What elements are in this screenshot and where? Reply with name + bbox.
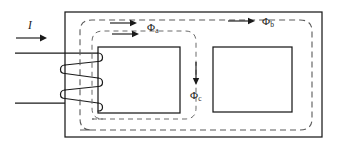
coil-strand-4 bbox=[65, 99, 98, 104]
left-window-rectangle bbox=[98, 47, 180, 113]
flux-c-subscript: c bbox=[198, 94, 202, 103]
flux-c-arrow-head bbox=[193, 78, 199, 85]
flux-a-subscript: a bbox=[155, 26, 159, 35]
outer-core-rectangle bbox=[65, 12, 322, 137]
flux-b-symbol: Φ bbox=[262, 15, 270, 27]
coil-turn-back-2 bbox=[61, 90, 66, 99]
current-arrow-head bbox=[40, 35, 47, 42]
flux-b-subscript: b bbox=[270, 20, 274, 29]
flux-a-symbol: Φ bbox=[147, 21, 155, 33]
coil-turn-front-1 bbox=[98, 53, 103, 62]
coil-turn-front-2 bbox=[98, 78, 103, 87]
flux-a-arrow-head-inner bbox=[132, 31, 139, 37]
flux-a-label: Φa bbox=[147, 22, 159, 34]
coil-turn-back-1 bbox=[61, 65, 66, 74]
coil-strand-3 bbox=[65, 87, 98, 91]
right-window-rectangle bbox=[213, 47, 292, 112]
flux-c-label: Φc bbox=[190, 90, 202, 102]
flux-c-symbol: Φ bbox=[190, 89, 198, 101]
coil-strand-2 bbox=[65, 74, 98, 79]
flux-b-arrow-head bbox=[248, 18, 255, 24]
figure-canvas bbox=[0, 0, 338, 154]
current-label: I bbox=[28, 20, 32, 32]
flux-a-arrow-head-outer bbox=[130, 20, 137, 26]
flux-b-label: Φb bbox=[262, 16, 274, 28]
coil-strand-1 bbox=[65, 62, 98, 66]
coil-turn-front-3 bbox=[98, 103, 103, 111]
magnetic-circuit-figure: I Φa Φb Φc bbox=[0, 0, 338, 154]
